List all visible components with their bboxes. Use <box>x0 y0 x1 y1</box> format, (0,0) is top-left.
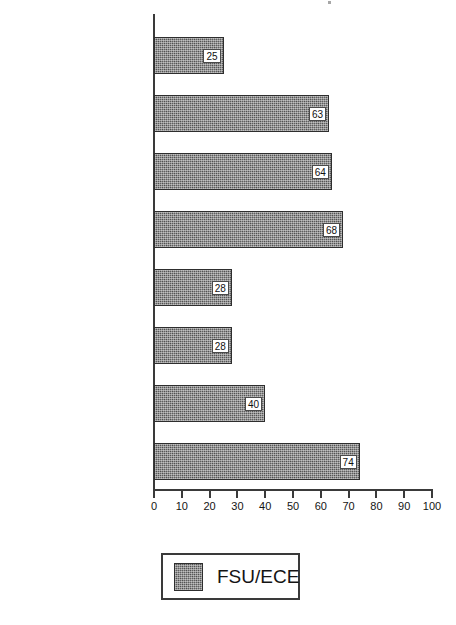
bar-wrapper: 68 <box>154 211 343 248</box>
bar-wrapper: 28 <box>154 327 232 364</box>
x-tick-label: 100 <box>423 500 441 512</box>
x-tick-mark <box>292 491 294 498</box>
bar-value-label: 68 <box>323 223 340 237</box>
chart-row: Populist values64 <box>154 142 432 200</box>
plot-area: Party values25Electoral values63Populist… <box>154 14 432 490</box>
chart-row: Party values25 <box>154 26 432 84</box>
legend-label-fsu-ece: FSU/ECE <box>217 566 299 588</box>
bar-value-label: 63 <box>309 107 326 121</box>
x-tick-mark <box>264 491 266 498</box>
bar-wrapper: 28 <box>154 269 232 306</box>
chart-legend: FSU/ECE <box>161 553 300 600</box>
bar-value-label: 28 <box>212 339 229 353</box>
chart-row: Liberal values68 <box>154 200 432 258</box>
chart-row: External nationalism40 <box>154 374 432 432</box>
chart-row: Socialist values74 <box>154 432 432 490</box>
bar-value-label: 25 <box>203 49 220 63</box>
x-tick-mark <box>153 491 155 498</box>
scan-artifact <box>328 1 331 4</box>
horizontal-bar-chart: Party values25Electoral values63Populist… <box>0 0 456 625</box>
bar-wrapper: 64 <box>154 153 332 190</box>
x-tick-mark <box>348 491 350 498</box>
x-tick-label: 70 <box>342 500 354 512</box>
bar-fsu-ece <box>154 95 329 132</box>
legend-swatch-fsu-ece <box>174 563 203 591</box>
bar-wrapper: 63 <box>154 95 329 132</box>
bar-value-label: 74 <box>340 455 357 469</box>
chart-row: Cultural nationalism28 <box>154 258 432 316</box>
bar-value-label: 40 <box>245 397 262 411</box>
bar-value-label: 64 <box>312 165 329 179</box>
bar-fsu-ece <box>154 211 343 248</box>
x-tick-mark <box>181 491 183 498</box>
x-tick-mark <box>209 491 211 498</box>
x-tick-label: 30 <box>231 500 243 512</box>
x-tick-mark <box>236 491 238 498</box>
x-tick-label: 50 <box>287 500 299 512</box>
x-tick-label: 60 <box>315 500 327 512</box>
chart-row: Electoral values63 <box>154 84 432 142</box>
x-tick-mark <box>320 491 322 498</box>
x-tick-label: 10 <box>176 500 188 512</box>
bar-wrapper: 74 <box>154 443 360 480</box>
chart-row: Centralist nationalism28 <box>154 316 432 374</box>
x-tick-mark <box>375 491 377 498</box>
x-tick-label: 40 <box>259 500 271 512</box>
x-tick-label: 90 <box>398 500 410 512</box>
bar-wrapper: 40 <box>154 385 265 422</box>
bar-fsu-ece <box>154 443 360 480</box>
x-tick-label: 0 <box>151 500 157 512</box>
bar-wrapper: 25 <box>154 37 224 74</box>
x-tick-mark <box>403 491 405 498</box>
x-tick-label: 20 <box>203 500 215 512</box>
bar-value-label: 28 <box>212 281 229 295</box>
x-tick-mark <box>431 491 433 498</box>
x-tick-label: 80 <box>370 500 382 512</box>
x-axis-ticks: 0102030405060708090100 <box>154 491 432 517</box>
bar-fsu-ece <box>154 153 332 190</box>
